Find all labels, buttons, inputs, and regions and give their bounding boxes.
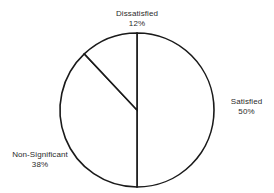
pie-label-satisfied-value: 50% bbox=[219, 107, 274, 117]
pie-label-dissatisfied: Dissatisfied 12% bbox=[0, 9, 274, 29]
pie-chart: Dissatisfied 12% Satisfied 50% Non-Signi… bbox=[0, 0, 274, 193]
pie-label-satisfied: Satisfied 50% bbox=[219, 97, 274, 117]
pie-label-non-significant: Non-Significant 38% bbox=[2, 150, 78, 170]
pie-label-non-significant-name: Non-Significant bbox=[2, 150, 78, 160]
pie-label-dissatisfied-value: 12% bbox=[0, 19, 274, 29]
pie-label-non-significant-value: 38% bbox=[2, 160, 78, 170]
pie-slice-satisfied[interactable] bbox=[137, 33, 214, 187]
pie-label-satisfied-name: Satisfied bbox=[219, 97, 274, 107]
pie-label-dissatisfied-name: Dissatisfied bbox=[0, 9, 274, 19]
